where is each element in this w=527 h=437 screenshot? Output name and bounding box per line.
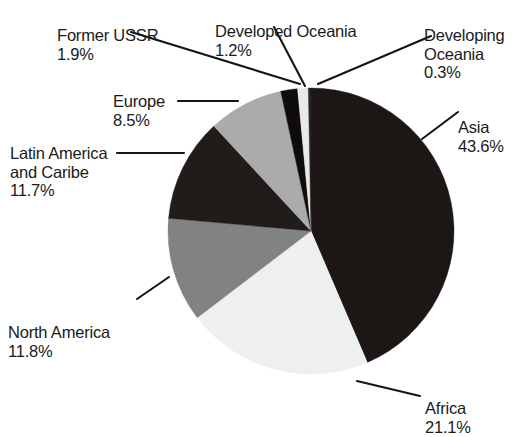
label-africa-pct: 21.1% [425,418,471,436]
label-north-america: North America 11.8% [8,305,110,379]
label-africa: Africa 21.1% [425,381,471,437]
label-former-ussr: Former USSR 1.9% [57,8,158,82]
label-north-america-name: North America [8,323,110,341]
pie-slice-group [168,88,454,374]
label-africa-name: Africa [425,399,466,417]
label-asia-name: Asia [458,118,489,136]
label-developing-oceania-name: Developing Oceania [424,26,505,62]
label-north-america-pct: 11.8% [8,342,110,360]
label-developed-oceania-name: Developed Oceania [215,22,357,40]
label-latin-america-pct: 11.7% [10,181,107,199]
label-latin-america-name: Latin America and Caribe [10,144,107,180]
label-developing-oceania: Developing Oceania 0.3% [424,8,505,100]
leader-line-africa [357,381,420,396]
label-developed-oceania: Developed Oceania 1.2% [215,4,357,78]
label-asia: Asia 43.6% [458,100,504,174]
leader-line-asia [422,112,458,139]
label-former-ussr-name: Former USSR [57,26,158,44]
label-europe: Europe 8.5% [113,74,165,148]
label-europe-name: Europe [113,92,165,110]
leader-line-north-america [137,277,169,299]
label-developed-oceania-pct: 1.2% [215,41,357,59]
label-europe-pct: 8.5% [113,111,165,129]
label-asia-pct: 43.6% [458,137,504,155]
label-developing-oceania-pct: 0.3% [424,63,505,81]
label-latin-america-and-caribe: Latin America and Caribe 11.7% [10,126,107,218]
label-former-ussr-pct: 1.9% [57,45,158,63]
